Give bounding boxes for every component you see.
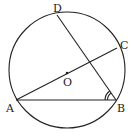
label-o: O xyxy=(63,76,72,89)
center-point-o xyxy=(66,72,69,75)
label-d: D xyxy=(53,2,62,15)
label-c: C xyxy=(120,39,128,52)
label-a: A xyxy=(5,102,15,115)
angle-arc-inner xyxy=(108,93,112,100)
geometry-diagram: D C O A B xyxy=(0,0,134,139)
label-b: B xyxy=(117,102,125,115)
